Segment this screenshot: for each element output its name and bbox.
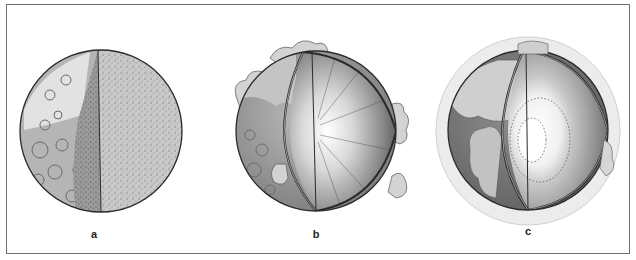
sphere-a	[20, 50, 182, 212]
sphere-b	[235, 41, 408, 211]
figure-illustration	[0, 0, 636, 260]
panel-label-c: c	[525, 225, 531, 237]
sphere-c	[436, 37, 620, 225]
panel-label-a: a	[91, 228, 97, 240]
panel-label-b: b	[313, 228, 320, 240]
